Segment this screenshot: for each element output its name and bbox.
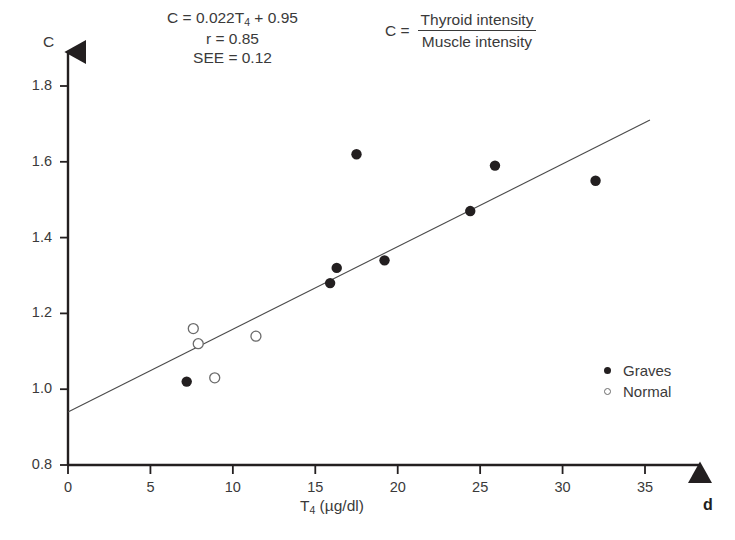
open-circle-icon [600, 388, 614, 395]
data-point-graves [181, 376, 191, 386]
regression-line [68, 120, 650, 412]
filled-circle-icon [600, 367, 614, 374]
data-point-graves [332, 263, 342, 273]
legend: Graves Normal [600, 360, 671, 402]
data-point-normal [210, 373, 220, 383]
data-point-normal [251, 331, 261, 341]
scatter-plot-figure: C = 0.022T4 + 0.95 r = 0.85 SEE = 0.12 C… [0, 0, 735, 540]
legend-item-graves[interactable]: Graves [600, 360, 671, 381]
legend-item-normal[interactable]: Normal [600, 381, 671, 402]
data-point-graves [351, 149, 361, 159]
trend-line [68, 120, 650, 412]
data-point-graves [325, 278, 335, 288]
data-point-graves [465, 206, 475, 216]
data-points [181, 149, 600, 387]
plot-canvas [0, 0, 735, 540]
axes [60, 52, 700, 474]
data-point-graves [590, 176, 600, 186]
legend-label-graves: Graves [623, 362, 671, 379]
data-point-normal [188, 324, 198, 334]
data-point-graves [490, 160, 500, 170]
data-point-graves [379, 255, 389, 265]
legend-label-normal: Normal [623, 383, 671, 400]
data-point-normal [193, 339, 203, 349]
